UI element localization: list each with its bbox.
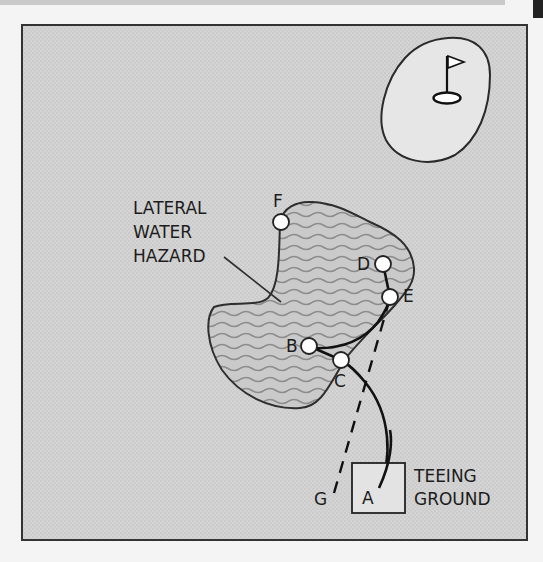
- teeing-ground-box: [352, 463, 405, 513]
- label-c: C: [334, 371, 346, 391]
- ball-point-d: [375, 256, 391, 272]
- label-g: G: [314, 489, 327, 509]
- ball-point-b: [301, 338, 317, 354]
- label-d: D: [357, 254, 370, 274]
- label-f: F: [273, 191, 283, 211]
- ball-point-e: [382, 289, 398, 305]
- label-e: E: [403, 286, 414, 306]
- label-a: A: [362, 488, 374, 508]
- label-b: B: [286, 336, 298, 356]
- golf-hole-diagram: LATERAL WATER HAZARD F D E B C G A TEEIN…: [0, 0, 543, 562]
- ball-point-f: [273, 214, 289, 230]
- hole-cup-icon: [434, 93, 461, 104]
- ball-point-c: [333, 352, 349, 368]
